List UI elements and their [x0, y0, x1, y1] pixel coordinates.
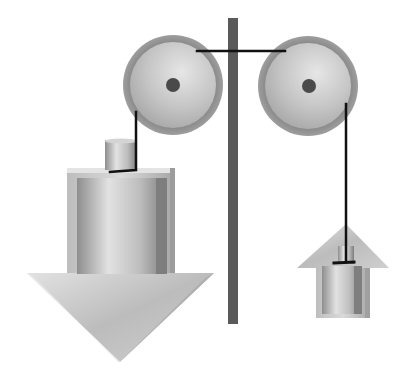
right-hub	[302, 79, 316, 93]
pulley-diagram: Two pulleys with hanging weights	[0, 0, 408, 380]
heavy-weight	[77, 139, 167, 275]
support-post	[228, 18, 238, 324]
left-hub	[166, 78, 180, 92]
